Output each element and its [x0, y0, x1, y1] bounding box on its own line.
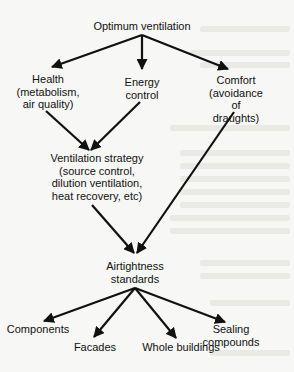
node-optimum-ventilation: Optimum ventilation — [93, 20, 190, 33]
arrow-optimum-to-comfort — [142, 35, 228, 69]
arrow-optimum-to-health — [52, 35, 142, 67]
node-facades: Facades — [74, 341, 116, 354]
node-components: Components — [7, 323, 69, 336]
node-health: Health (metabolism, air quality) — [17, 73, 80, 111]
arrow-comfort-to-airtightness — [137, 112, 234, 253]
arrow-energy-to-strategy — [91, 102, 140, 150]
arrow-strategy-to-airtightness — [92, 205, 134, 253]
diagram-links — [0, 0, 294, 372]
node-energy-control: Energy control — [125, 76, 160, 101]
node-comfort: Comfort (avoidance of draughts) — [207, 74, 265, 124]
node-ventilation-strategy: Ventilation strategy (source control, di… — [51, 152, 144, 202]
node-airtightness-standards: Airtightness standards — [106, 260, 163, 285]
node-sealing-compounds: Sealing compounds — [200, 323, 263, 348]
arrow-health-to-strategy — [46, 111, 89, 150]
